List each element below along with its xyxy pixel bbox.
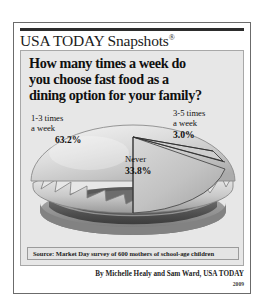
label-never-category: Never: [125, 155, 151, 165]
chart-panel: How many times a week do you choose fast…: [20, 50, 244, 266]
label-1-3-times-value: 63.2%: [55, 135, 81, 146]
headline-line-1: How many times a week do: [29, 56, 237, 72]
label-3-5-times-value: 3.0%: [173, 130, 205, 141]
masthead: USA TODAY Snapshots®: [20, 28, 244, 49]
label-never: Never 33.8%: [125, 155, 151, 176]
label-3-5-times-category-2: a week: [173, 119, 205, 129]
masthead-title-text: USA TODAY Snapshots: [20, 32, 169, 49]
headline-line-2: you choose fast food as a: [29, 72, 237, 88]
registered-trademark-icon: ®: [169, 33, 175, 42]
snapshot-graphic: USA TODAY Snapshots® How many times a we…: [0, 0, 266, 305]
source-box: Source: Market Day survey of 600 mothers…: [27, 247, 239, 260]
byline-year: 2009: [20, 281, 244, 287]
masthead-rule: [20, 28, 244, 31]
label-3-5-times: 3-5 times a week 3.0%: [173, 109, 205, 141]
source-text: Source: Market Day survey of 600 mothers…: [33, 250, 234, 257]
label-1-3-times-category-2: a week: [31, 124, 81, 134]
byline-credit: By Michelle Healy and Sam Ward, USA TODA…: [20, 270, 244, 278]
label-never-value: 33.8%: [125, 166, 151, 177]
headline: How many times a week do you choose fast…: [29, 56, 237, 103]
label-1-3-times: 1-3 times a week 63.2%: [31, 114, 81, 146]
masthead-title: USA TODAY Snapshots®: [20, 33, 244, 49]
